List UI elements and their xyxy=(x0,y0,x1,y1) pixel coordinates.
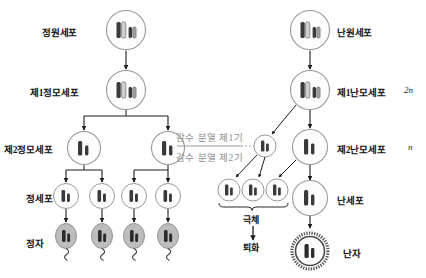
cell-sperm-3 xyxy=(124,224,145,261)
cell-sperm-4 xyxy=(158,224,179,261)
cell-sperm-2 xyxy=(92,224,113,261)
cell-spermatid-1 xyxy=(54,184,79,209)
cell-ootid xyxy=(293,181,328,216)
label-secondary-spermatocyte: 제2정모세포 xyxy=(4,142,53,156)
label-spermatogonium: 정원세포 xyxy=(42,25,77,39)
cell-primary-spermatocyte xyxy=(107,71,146,110)
label-sperm: 정자 xyxy=(26,236,44,250)
cell-secondary-spermatocyte-left xyxy=(68,132,101,165)
cell-primary-oocyte xyxy=(291,71,330,110)
polar-body-brace xyxy=(219,203,288,211)
cell-spermatid-4 xyxy=(156,184,181,209)
ploidy-secondary-oocyte: n xyxy=(408,142,413,152)
cell-sperm-1 xyxy=(56,224,77,261)
label-secondary-oocyte: 제2난모세포 xyxy=(337,142,386,156)
cell-polar-body-1 xyxy=(254,135,276,157)
label-primary-spermatocyte: 제1정모세포 xyxy=(30,85,79,99)
label-polar-body: 극체 xyxy=(243,213,259,226)
cell-spermatid-2 xyxy=(90,184,115,209)
cell-ovum xyxy=(292,233,328,269)
label-ootid: 난세포 xyxy=(337,193,363,207)
label-degeneration: 퇴화 xyxy=(243,241,259,254)
cell-polar-body-4 xyxy=(266,179,288,201)
label-oogonium: 난원세포 xyxy=(337,25,372,39)
cell-spermatid-3 xyxy=(122,184,147,209)
arrow-secondary-oocyte-to-polar-body xyxy=(279,160,296,177)
fork-primary-to-secondary xyxy=(84,110,168,130)
diagram-canvas: 정원세포 제1정모세포 제2정모세포 정세포 정자 감수 분열 제1기 감수 분… xyxy=(0,0,426,278)
label-primary-oocyte: 제1난모세포 xyxy=(337,85,386,99)
label-meiosis-phase-2: 감수 분열 제2기 xyxy=(176,150,243,164)
label-ovum: 난자 xyxy=(343,246,361,260)
cell-polar-body-2 xyxy=(218,179,240,201)
cell-oogonium xyxy=(291,11,330,50)
cell-polar-body-3 xyxy=(242,179,264,201)
cell-spermatogonium xyxy=(107,11,146,50)
arrows-spermatid-to-sperm xyxy=(66,209,168,222)
arrow-primary-oocyte-to-polar-body-1 xyxy=(272,105,296,134)
arrow-polar-body-1-to-3 xyxy=(259,157,265,177)
label-meiosis-phase-1: 감수 분열 제1기 xyxy=(176,130,243,144)
label-spermatid: 정세포 xyxy=(26,191,52,205)
fork-secondary-right-to-spermatids xyxy=(134,165,168,182)
ploidy-primary-oocyte: 2n xyxy=(404,85,413,95)
fork-secondary-left-to-spermatids xyxy=(66,165,102,182)
cell-secondary-oocyte xyxy=(293,130,328,165)
